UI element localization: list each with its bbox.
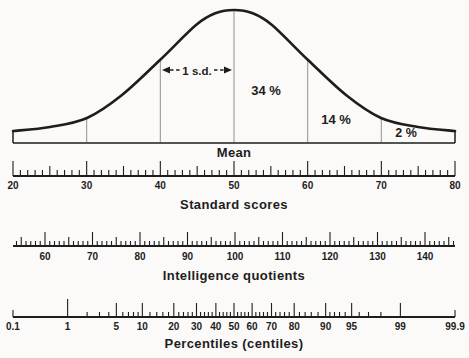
tick-label: 0.1 (6, 321, 20, 332)
tick-label: 30 (191, 321, 203, 332)
tick-label: 70 (376, 180, 388, 191)
tick-label: 70 (87, 251, 99, 262)
tick-label: 10 (137, 321, 149, 332)
tick-label: 1 (65, 321, 71, 332)
tick-label: 80 (134, 251, 146, 262)
tick-label: 60 (247, 321, 259, 332)
tick-label: 99 (395, 321, 407, 332)
area-label-34: 34 % (251, 83, 281, 98)
tick-label: 80 (449, 180, 461, 191)
tick-label: 20 (7, 180, 19, 191)
mean-label: Mean (217, 145, 251, 160)
area-label-2: 2 % (395, 126, 417, 140)
tick-label: 30 (81, 180, 93, 191)
sd-arrow-label: 1 s.d. (182, 65, 211, 77)
percentiles-title: Percentiles (centiles) (165, 336, 304, 351)
tick-label: 40 (155, 180, 167, 191)
tick-label: 130 (369, 251, 386, 262)
tick-label: 90 (182, 251, 194, 262)
tick-label: 20 (168, 321, 180, 332)
tick-label: 40 (210, 321, 222, 332)
tick-label: 5 (114, 321, 120, 332)
tick-label: 120 (322, 251, 339, 262)
scale-intelligence-quotients: 60708090100110120130140 (13, 232, 455, 262)
scale-standard-scores: 20304050607080 (7, 161, 461, 191)
tick-label: 60 (302, 180, 314, 191)
scale-percentiles: 0.115102030405060708090959999.9 (6, 299, 465, 332)
sd-arrow-right-head-icon (224, 66, 232, 73)
tick-label: 110 (274, 251, 291, 262)
tick-label: 80 (289, 321, 301, 332)
diagram-svg: 1 s.d. 34 % 14 % 2 % Mean 20304050607080… (0, 0, 469, 358)
tick-label: 95 (346, 321, 358, 332)
tick-label: 50 (228, 180, 240, 191)
tick-label: 90 (320, 321, 332, 332)
standard-scores-title: Standard scores (180, 197, 288, 212)
tick-label: 60 (39, 251, 51, 262)
normal-curve-figure: 1 s.d. 34 % 14 % 2 % Mean 20304050607080… (0, 0, 469, 358)
area-label-14: 14 % (321, 112, 351, 127)
tick-label: 50 (228, 321, 240, 332)
sd-arrow-left-head-icon (162, 66, 170, 73)
tick-label: 100 (227, 251, 244, 262)
tick-label: 99.9 (445, 321, 465, 332)
sd-arrow: 1 s.d. (162, 65, 232, 77)
tick-label: 140 (417, 251, 434, 262)
tick-label: 70 (266, 321, 278, 332)
intelligence-quotients-title: Intelligence quotients (163, 268, 305, 283)
